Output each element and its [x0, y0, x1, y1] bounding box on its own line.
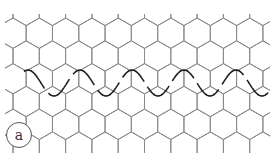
panel-label-text: a: [15, 127, 23, 143]
lattice-diagram: [0, 0, 277, 165]
panel-label-a: a: [6, 122, 32, 148]
honeycomb-figure: a: [0, 0, 277, 165]
